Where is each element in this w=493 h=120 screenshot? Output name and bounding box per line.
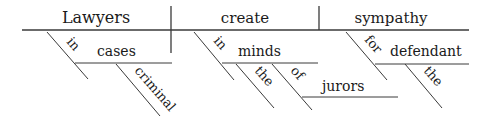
verb-prep-object-word: minds [238, 43, 281, 59]
the-minds-word: the [252, 63, 277, 89]
object-prep-word: for [362, 32, 386, 57]
object-word: sympathy [354, 9, 428, 27]
the-defendant-word: the [421, 63, 446, 89]
object-prep-object-word: defendant [390, 43, 462, 59]
subject-prep-word: in [64, 34, 84, 54]
subject-prep-diagonal [47, 32, 88, 79]
verb-prep-word: in [211, 33, 231, 53]
criminal-word: criminal [132, 63, 179, 114]
subject-prep-object-word: cases [97, 43, 136, 59]
subject-word: Lawyers [62, 8, 130, 27]
jurors-word: jurors [320, 78, 364, 94]
of-word: of [288, 63, 308, 83]
sentence-diagram: Lawyers create sympathy in cases crimina… [0, 0, 493, 120]
verb-word: create [221, 9, 269, 27]
